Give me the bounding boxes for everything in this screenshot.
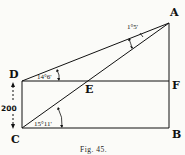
label-point-b: B xyxy=(172,128,181,141)
angle-arc-c-icon xyxy=(57,107,63,128)
angle-arc-d-icon xyxy=(56,69,60,81)
label-point-f: F xyxy=(172,79,180,92)
angle-label-c: 15°11' xyxy=(34,120,52,128)
angle-label-a: 1°5' xyxy=(127,23,138,31)
label-point-e: E xyxy=(85,83,93,96)
label-point-a: A xyxy=(169,6,179,19)
label-point-c: C xyxy=(11,133,20,146)
diagram-canvas: A D F E C B 1°5' 14°6' 15°11' 200 Fig. 4… xyxy=(0,0,185,155)
label-point-d: D xyxy=(9,68,19,81)
figure-caption: Fig. 45. xyxy=(80,145,107,154)
dimension-label-dc: 200 xyxy=(1,104,17,113)
angle-label-d: 14°6' xyxy=(37,73,52,81)
